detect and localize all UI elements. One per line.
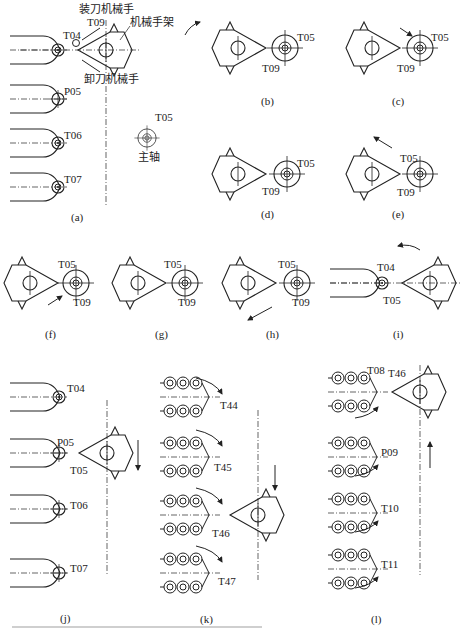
scan-edge [12, 626, 262, 628]
caption-l: (l) [371, 614, 381, 625]
label-f-t09: T09 [73, 297, 91, 308]
label-a-t07: T07 [64, 174, 82, 185]
label-k-t44: T44 [220, 400, 238, 411]
label-g-t09: T09 [178, 297, 196, 308]
label-a-t05: T05 [155, 112, 173, 123]
label-e-t09: T09 [397, 187, 415, 198]
label-l-t08: T08 [367, 365, 385, 376]
panel-c [346, 22, 438, 74]
panel-j [10, 383, 138, 587]
label-k-t46: T46 [212, 528, 230, 539]
caption-g: (g) [155, 329, 168, 340]
label-j-t06: T06 [70, 500, 88, 511]
caption-j: (j) [60, 613, 70, 624]
panel-h [222, 257, 315, 320]
label-h-t05: T05 [278, 259, 296, 270]
label-c-t05: T05 [431, 32, 449, 43]
caption-a: (a) [71, 212, 83, 223]
label-b-t09: T09 [262, 63, 280, 74]
label-j-t07: T07 [70, 563, 88, 574]
label-h-t09: T09 [292, 297, 310, 308]
panel-d [212, 148, 305, 200]
label-e-t05: T05 [400, 153, 418, 164]
panel-l [328, 365, 446, 589]
label-f-t05: T05 [58, 259, 76, 270]
caption-f: (f) [45, 329, 56, 340]
label-l-p09: P09 [381, 447, 398, 458]
label-arm-frame: 机械手架 [130, 17, 174, 28]
caption-e: (e) [392, 209, 404, 220]
label-j-p05: P05 [57, 437, 74, 448]
label-loader-arm: 装刀机械手 [79, 4, 134, 15]
label-c-t09: T09 [397, 63, 415, 74]
label-a-p05: P05 [64, 86, 81, 97]
panel-b [185, 22, 303, 74]
label-j-t05: T05 [70, 465, 88, 476]
caption-i: (i) [393, 329, 403, 340]
label-d-t09: T09 [262, 186, 280, 197]
label-l-t10: T10 [381, 503, 399, 514]
panel-a [10, 20, 160, 205]
label-i-t04: T04 [377, 262, 395, 273]
label-l-t11: T11 [381, 559, 398, 570]
label-k-t47: T47 [218, 576, 236, 587]
caption-d: (d) [261, 209, 274, 220]
label-l-t46: T46 [388, 368, 406, 379]
label-unloader-arm: 卸刀机械手 [84, 74, 139, 85]
panel-e [346, 137, 438, 200]
caption-k: (k) [200, 614, 213, 625]
label-k-t45: T45 [214, 462, 232, 473]
label-spindle: 主轴 [138, 152, 160, 163]
caption-h: (h) [266, 329, 279, 340]
caption-b: (b) [261, 96, 274, 107]
label-a-t09: T09 [87, 17, 105, 28]
label-j-t04: T04 [67, 383, 85, 394]
label-b-t05: T05 [297, 32, 315, 43]
label-a-t04: T04 [63, 30, 81, 41]
label-d-t05: T05 [297, 158, 315, 169]
caption-c: (c) [392, 96, 404, 107]
label-g-t05: T05 [164, 259, 182, 270]
label-a-t06: T06 [64, 130, 82, 141]
label-i-t05: T05 [383, 295, 401, 306]
